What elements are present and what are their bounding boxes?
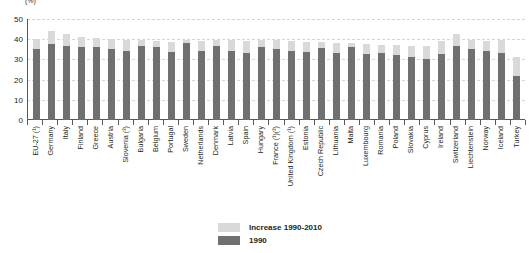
x-axis-tick (419, 120, 420, 125)
bar-column[interactable] (374, 19, 389, 120)
bar-segment-increase (498, 40, 505, 54)
bar-column[interactable] (269, 19, 284, 120)
x-axis-tick (450, 120, 451, 125)
x-axis-tick (87, 120, 88, 125)
x-axis-label-cell: Portugal (163, 126, 178, 212)
bar-segment-1990 (63, 46, 70, 120)
bar-column[interactable] (44, 19, 59, 120)
bar-segment-1990 (273, 49, 280, 120)
bar-column[interactable] (359, 19, 374, 120)
x-axis-label: Switzerland (452, 126, 460, 163)
bar-column[interactable] (419, 19, 434, 120)
x-axis-label: Norway (482, 126, 490, 150)
bar-column[interactable] (239, 19, 254, 120)
bar-column[interactable] (494, 19, 509, 120)
bar-segment-1990 (513, 76, 520, 120)
x-axis-label: Lithuania (332, 126, 340, 155)
bar-segment-increase (33, 39, 40, 50)
bar-column[interactable] (29, 19, 44, 120)
bar-column[interactable] (224, 19, 239, 120)
bar-segment-1990 (408, 57, 415, 120)
x-axis-label-cell: Poland (389, 126, 404, 212)
bar-column[interactable] (479, 19, 494, 120)
bar-segment-1990 (228, 51, 235, 120)
bar-segment-increase (483, 41, 490, 52)
bar-segment-increase (468, 40, 475, 49)
bar-column[interactable] (89, 19, 104, 120)
x-axis-tick (525, 120, 526, 125)
legend-swatch (218, 223, 240, 232)
bar-segment-1990 (363, 54, 370, 120)
x-axis-label: Italy (62, 126, 70, 139)
x-axis-label-cell: Ireland (434, 126, 449, 212)
x-axis-tick (465, 120, 466, 125)
x-axis-label: Romania (377, 126, 385, 155)
bar-column[interactable] (449, 19, 464, 120)
bar-column[interactable] (329, 19, 344, 120)
x-axis-label-cell: Turkey (509, 126, 524, 212)
bar-column[interactable] (149, 19, 164, 120)
bar-column[interactable] (254, 19, 269, 120)
bar-column[interactable] (119, 19, 134, 120)
y-axis-tick-label: 20 (14, 75, 23, 84)
legend-item[interactable]: 1990 (218, 235, 322, 245)
bar-segment-1990 (213, 46, 220, 120)
x-axis-label: Finland (77, 126, 85, 150)
bar-series-container (28, 19, 525, 120)
bar-segment-increase (228, 40, 235, 51)
x-axis-label-cell: Liechtenstein (464, 126, 479, 212)
bar-column[interactable] (314, 19, 329, 120)
bar-column[interactable] (464, 19, 479, 120)
bar-column[interactable] (164, 19, 179, 120)
legend-item[interactable]: Increase 1990-2010 (218, 222, 322, 232)
x-axis-category-labels: EU-27 (¹)GermanyItalyFinlandGreeceAustri… (27, 126, 525, 212)
legend-label: Increase 1990-2010 (249, 223, 322, 232)
x-axis-tick (359, 120, 360, 125)
x-axis-label-cell: Lithuania (329, 126, 344, 212)
bar-segment-increase (48, 31, 55, 44)
bar-column[interactable] (179, 19, 194, 120)
bar-column[interactable] (209, 19, 224, 120)
x-axis-tick (314, 120, 315, 125)
bar-column[interactable] (104, 19, 119, 120)
x-axis-label: Luxembourg (362, 126, 370, 166)
bar-column[interactable] (509, 19, 524, 120)
bar-column[interactable] (344, 19, 359, 120)
x-axis-label: Hungary (257, 126, 265, 153)
x-axis-label-cell: Belgium (148, 126, 163, 212)
bar-column[interactable] (389, 19, 404, 120)
bar-segment-1990 (453, 46, 460, 120)
x-axis-label: Slovenia (²) (122, 126, 130, 163)
bar-segment-1990 (93, 47, 100, 120)
bar-column[interactable] (59, 19, 74, 120)
bar-segment-1990 (33, 49, 40, 120)
bar-column[interactable] (74, 19, 89, 120)
x-axis-label: Belgium (152, 126, 160, 152)
y-axis-tick-label: 40 (14, 35, 23, 44)
bar-segment-1990 (138, 46, 145, 120)
x-axis-tick (208, 120, 209, 125)
x-axis-label-cell: Germany (43, 126, 58, 212)
bar-segment-increase (153, 41, 160, 48)
bar-column[interactable] (284, 19, 299, 120)
bar-column[interactable] (434, 19, 449, 120)
bar-column[interactable] (299, 19, 314, 120)
bar-segment-1990 (288, 51, 295, 120)
x-axis-tick (148, 120, 149, 125)
x-axis-label-cell: Estonia (299, 126, 314, 212)
x-axis-label-cell: Latvia (223, 126, 238, 212)
bar-column[interactable] (194, 19, 209, 120)
x-axis-label: Portugal (167, 126, 175, 153)
bar-column[interactable] (134, 19, 149, 120)
bar-segment-1990 (123, 51, 130, 120)
x-axis-tick (495, 120, 496, 125)
bar-segment-increase (198, 41, 205, 51)
bar-segment-1990 (168, 52, 175, 120)
bar-segment-1990 (198, 51, 205, 120)
legend-label: 1990 (249, 236, 267, 245)
x-axis-tick (118, 120, 119, 125)
x-axis-label: France (¹)(²) (272, 126, 280, 165)
bar-segment-1990 (333, 53, 340, 120)
bar-column[interactable] (404, 19, 419, 120)
x-axis-label-cell: EU-27 (¹) (28, 126, 43, 212)
